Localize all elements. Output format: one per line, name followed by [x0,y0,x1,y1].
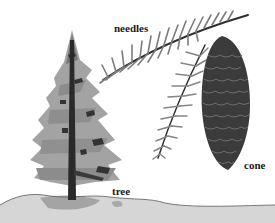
tree-illustration [30,30,122,200]
label-tree: tree [112,186,130,197]
label-cone: cone [244,160,265,171]
ground [0,194,275,223]
tree-diagram: needles cone tree [0,0,275,223]
label-needles: needles [114,23,148,34]
cone-illustration [202,36,250,170]
